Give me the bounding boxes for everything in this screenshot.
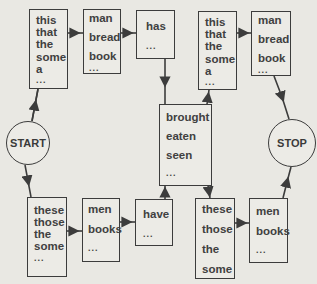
word: seen [166,149,192,161]
word: books [88,223,122,235]
word: that [36,26,57,38]
word: man [89,12,113,24]
ellipsis: ... [143,228,154,240]
word: these [34,204,64,216]
word: the [36,38,53,50]
word: some [205,53,235,65]
box-bottom-determiner-1: these those the some ... [27,197,67,277]
box-bottom-determiner-2: these those the some [195,198,235,279]
word: book [89,50,116,62]
word: those [202,223,233,235]
ellipsis: ... [36,74,47,86]
box-top-determiner-1: this that the some a ... [29,9,68,89]
start-label: START [10,137,46,149]
word: some [36,51,66,63]
stop-node: STOP [268,119,316,167]
word: that [205,28,226,40]
word: the [205,40,222,52]
word: has [146,20,166,32]
stop-label: STOP [277,137,307,149]
box-bottom-auxiliary: have ... [135,199,173,246]
word: this [205,16,225,28]
box-top-determiner-2: this that the some a ... [198,11,237,90]
ellipsis: ... [258,64,269,76]
word: those [34,216,65,228]
ellipsis: ... [88,242,99,254]
word: men [88,203,112,215]
start-node: START [6,121,50,165]
word: this [36,14,56,26]
word: bread [89,31,120,43]
word: man [258,14,282,26]
word: these [202,203,232,215]
ellipsis: ... [89,62,100,74]
box-top-auxiliary: has ... [136,10,175,59]
ellipsis: ... [34,252,45,264]
word: have [143,208,169,220]
word: books [256,225,290,237]
ellipsis: ... [256,244,267,256]
ellipsis: ... [146,40,157,52]
word: the [34,228,51,240]
word: bread [258,33,289,45]
word: some [202,263,232,275]
word: some [34,240,64,252]
word: eaten [166,130,196,142]
box-top-noun-2: man bread book ... [251,11,291,76]
ellipsis: ... [166,167,177,179]
box-top-noun-1: man bread book ... [83,9,121,74]
word: book [258,52,285,64]
word: brought [166,111,209,123]
word: men [256,205,280,217]
box-participle: brought eaten seen ... [159,104,212,186]
box-bottom-noun-1: men books ... [82,198,120,262]
word: the [202,243,219,255]
box-bottom-noun-2: men books ... [249,198,288,263]
ellipsis: ... [205,76,216,88]
